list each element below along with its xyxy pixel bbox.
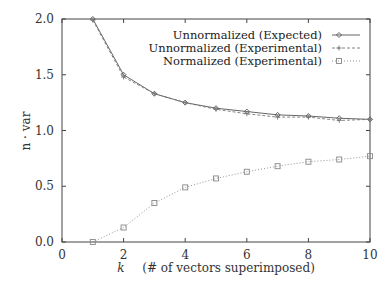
y-tick-label: 0.5 [35, 179, 54, 193]
legend: Unnormalized (Expected)Unnormalized (Exp… [149, 28, 360, 68]
square-marker [306, 159, 311, 164]
line-chart: 02468100.00.51.01.52.0 Unnormalized (Exp… [0, 0, 392, 287]
legend-label: Unnormalized (Experimental) [149, 41, 322, 55]
series-line [93, 156, 370, 242]
square-marker [152, 200, 157, 205]
square-marker [183, 185, 188, 190]
x-tick-label: 0 [58, 248, 66, 262]
x-tick-label: 4 [181, 248, 189, 262]
plus-marker [368, 117, 373, 122]
x-tick-label: 2 [120, 248, 128, 262]
plus-marker [183, 100, 188, 105]
y-axis-label: n · var [19, 111, 33, 150]
y-tick-label: 0.0 [35, 235, 54, 249]
legend-label: Unnormalized (Expected) [173, 28, 322, 42]
x-tick-label: 6 [243, 248, 251, 262]
legend-label: Normalized (Experimental) [163, 54, 322, 68]
plus-marker [152, 91, 157, 96]
x-tick-label: 10 [362, 248, 377, 262]
x-axis-variable: k [117, 261, 124, 275]
y-tick-label: 1.5 [35, 68, 54, 82]
x-tick-label: 8 [305, 248, 313, 262]
y-tick-label: 1.0 [35, 124, 54, 138]
x-axis-label: k (# of vectors superimposed) [117, 261, 315, 275]
series-normalized-experimental [90, 154, 372, 245]
plus-marker [337, 46, 342, 51]
y-tick-label: 2.0 [35, 12, 54, 26]
x-axis-description: (# of vectors superimposed) [142, 261, 315, 275]
